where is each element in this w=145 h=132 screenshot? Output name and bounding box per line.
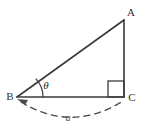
- triangle-diagram-svg: A B C θ a: [0, 0, 145, 132]
- vertex-label-b: B: [6, 90, 13, 102]
- dashed-measure-arc: [21, 101, 123, 117]
- geometry-figure-container: A B C θ a: [0, 0, 145, 132]
- vertex-label-c: C: [128, 91, 135, 103]
- vertex-label-a: A: [127, 6, 135, 18]
- arc-length-label-a: a: [66, 112, 71, 123]
- arc-arrowhead-icon: [17, 99, 28, 105]
- angle-label-theta: θ: [43, 79, 49, 91]
- right-angle-marker-icon: [108, 81, 124, 97]
